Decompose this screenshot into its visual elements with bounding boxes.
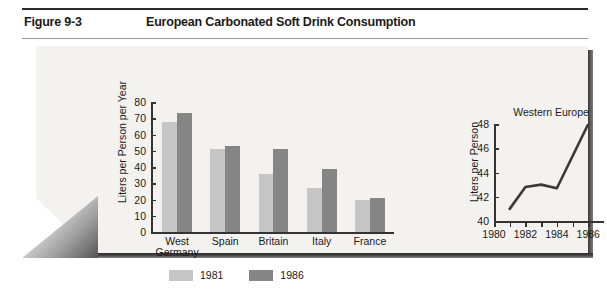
bar-chart-y-tick-label: 80 — [134, 97, 146, 107]
bar-1986 — [177, 113, 192, 232]
bar-group — [307, 102, 337, 232]
line-chart-title: Western Europe — [481, 106, 607, 118]
bar-1981 — [307, 188, 322, 232]
bar-1981 — [259, 174, 274, 233]
figure-label: Figure 9-3 — [24, 15, 82, 29]
bar-1981 — [355, 200, 370, 233]
line-chart-y-tick-label: 48 — [477, 119, 489, 129]
bar-chart-plot-area: WestGermanySpainBritainItalyFrance — [153, 102, 394, 232]
bar-chart-y-tick-label: 60 — [134, 130, 146, 140]
bar-1986 — [225, 146, 240, 232]
bar-chart-y-tick-label: 70 — [134, 113, 146, 123]
line-chart: Western Europe Liters per Person 4042444… — [461, 106, 607, 256]
line-chart-x-tick-label: 1984 — [545, 228, 568, 240]
bar-chart-category-label: Britain — [249, 236, 297, 247]
bar-chart-y-tick-labels: 01020304050607080 — [126, 102, 146, 232]
legend-label: 1986 — [280, 269, 303, 281]
line-chart-y-tick-labels: 4042444648 — [469, 124, 489, 221]
bar-chart-y-tick-label: 10 — [134, 211, 146, 221]
line-chart-x-tick-label: 1982 — [514, 228, 537, 240]
line-chart-x-tick-label: 1986 — [577, 228, 600, 240]
bar-group — [355, 102, 385, 232]
line-chart-y-tick-label: 44 — [477, 168, 489, 178]
bar-group — [162, 102, 192, 232]
line-chart-y-tick-label: 42 — [477, 192, 489, 202]
line-chart-x-tick-label: 1980 — [482, 228, 505, 240]
figure-page: Figure 9-3 European Carbonated Soft Drin… — [0, 0, 607, 295]
figure-title: European Carbonated Soft Drink Consumpti… — [146, 15, 415, 29]
bar-chart-y-tick-label: 0 — [140, 227, 146, 237]
legend-swatch-1986 — [249, 270, 273, 281]
bar-chart-y-tick-label: 20 — [134, 195, 146, 205]
bar-chart: Liters per Person per Year 0102030405060… — [126, 102, 394, 250]
bar-chart-y-tick-mark — [151, 183, 156, 185]
legend-item: 1981 — [169, 269, 223, 281]
header-rule-top — [22, 8, 588, 10]
bar-group — [259, 102, 289, 232]
bar-group — [210, 102, 240, 232]
bar-chart-category-label: Italy — [298, 236, 346, 247]
bar-1986 — [370, 198, 385, 232]
bar-1981 — [210, 149, 225, 232]
bar-1986 — [273, 149, 288, 232]
bar-1981 — [162, 122, 177, 233]
legend-label: 1981 — [200, 269, 223, 281]
header-rule-bottom — [22, 38, 588, 39]
bar-chart-y-tick-label: 30 — [134, 178, 146, 188]
bar-chart-x-axis-line — [151, 232, 394, 234]
bar-chart-y-tick-mark — [151, 118, 156, 120]
chart-legend: 19811986 — [169, 269, 304, 281]
line-chart-y-tick-label: 40 — [477, 216, 489, 226]
bar-chart-category-label: WestGermany — [153, 236, 201, 258]
bar-chart-y-tick-label: 40 — [134, 162, 146, 172]
bar-chart-category-label: Spain — [201, 236, 249, 247]
line-chart-y-tick-label: 46 — [477, 143, 489, 153]
bar-chart-y-tick-mark — [151, 102, 156, 104]
bar-chart-y-tick-mark — [151, 167, 156, 169]
bar-chart-y-tick-mark — [151, 135, 156, 137]
bar-chart-y-tick-mark — [151, 232, 156, 234]
bar-1986 — [322, 169, 337, 232]
legend-swatch-1981 — [169, 270, 193, 281]
bar-chart-y-tick-label: 50 — [134, 146, 146, 156]
bar-chart-y-tick-mark — [151, 216, 156, 218]
bar-chart-y-tick-mark — [151, 151, 156, 153]
bar-chart-category-label: France — [346, 236, 394, 247]
bar-chart-y-tick-mark — [151, 200, 156, 202]
legend-item: 1986 — [249, 269, 303, 281]
chart-panel: Liters per Person per Year 0102030405060… — [36, 46, 588, 253]
line-chart-series-path — [494, 124, 607, 223]
